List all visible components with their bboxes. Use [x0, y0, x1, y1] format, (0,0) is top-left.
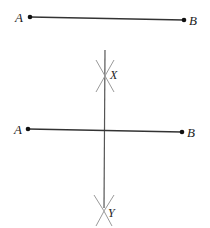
segment-ab-top: [30, 17, 184, 20]
perpendicular-bisector-diagram: A B X A B Y: [0, 0, 210, 228]
point-a-top: [28, 15, 33, 20]
point-b: [180, 130, 185, 135]
label-a-top: A: [14, 10, 23, 25]
top-segment-group: A B: [14, 10, 197, 28]
construction-group: X A B Y: [13, 50, 195, 226]
point-b-top: [182, 18, 187, 23]
label-y: Y: [108, 206, 116, 220]
label-a: A: [13, 122, 22, 137]
point-a: [26, 127, 31, 132]
label-x: X: [109, 68, 118, 82]
label-b-top: B: [189, 13, 197, 28]
label-b: B: [187, 125, 195, 140]
